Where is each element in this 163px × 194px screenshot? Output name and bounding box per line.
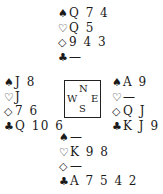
spade-icon: ♠: [4, 76, 15, 91]
east-spades: ♠A 9: [112, 75, 163, 90]
compass-south: S: [79, 104, 86, 114]
diamond-icon: ◇: [59, 160, 70, 175]
north-hearts: ♡Q 5: [58, 21, 109, 36]
club-icon: ♣: [58, 51, 69, 66]
east-hand: ♠A 9 ♡— ◇Q J ♣K J 9 8: [112, 75, 163, 133]
club-icon: ♣: [59, 175, 70, 190]
west-hand: ♠J 8 ♡J ◇7 6 ♣Q 10 6: [4, 75, 64, 133]
south-clubs: ♣A 7 5 4 2: [59, 174, 138, 189]
north-diamonds: ◇9 4 3: [58, 35, 109, 50]
spade-icon: ♠: [112, 76, 123, 91]
south-spades: ♠—: [59, 130, 138, 145]
west-diamonds: ◇7 6: [4, 104, 64, 119]
south-diamonds: ◇—: [59, 159, 138, 174]
south-hearts: ♡K 9 8: [59, 145, 138, 160]
east-hearts: ♡—: [112, 90, 163, 105]
heart-icon: ♡: [58, 22, 69, 37]
north-hand: ♠Q 7 4 ♡Q 5 ◇9 4 3 ♣—: [58, 6, 109, 64]
west-clubs: ♣Q 10 6: [4, 119, 64, 134]
diamond-icon: ◇: [4, 105, 15, 120]
south-hand: ♠— ♡K 9 8 ◇— ♣A 7 5 4 2: [59, 130, 138, 188]
heart-icon: ♡: [112, 91, 123, 106]
west-spades: ♠J 8: [4, 75, 64, 90]
compass-box: N W E S: [64, 80, 101, 118]
north-spades: ♠Q 7 4: [58, 6, 109, 21]
compass-east: E: [91, 94, 98, 104]
north-clubs: ♣—: [58, 50, 109, 65]
diamond-icon: ◇: [58, 36, 69, 51]
diamond-icon: ◇: [112, 105, 123, 120]
club-icon: ♣: [4, 120, 15, 135]
compass-west: W: [67, 94, 77, 104]
west-hearts: ♡J: [4, 90, 64, 105]
east-diamonds: ◇Q J: [112, 104, 163, 119]
spade-icon: ♠: [59, 131, 70, 146]
spade-icon: ♠: [58, 7, 69, 22]
compass-north: N: [79, 84, 88, 94]
heart-icon: ♡: [59, 146, 70, 161]
heart-icon: ♡: [4, 91, 15, 106]
